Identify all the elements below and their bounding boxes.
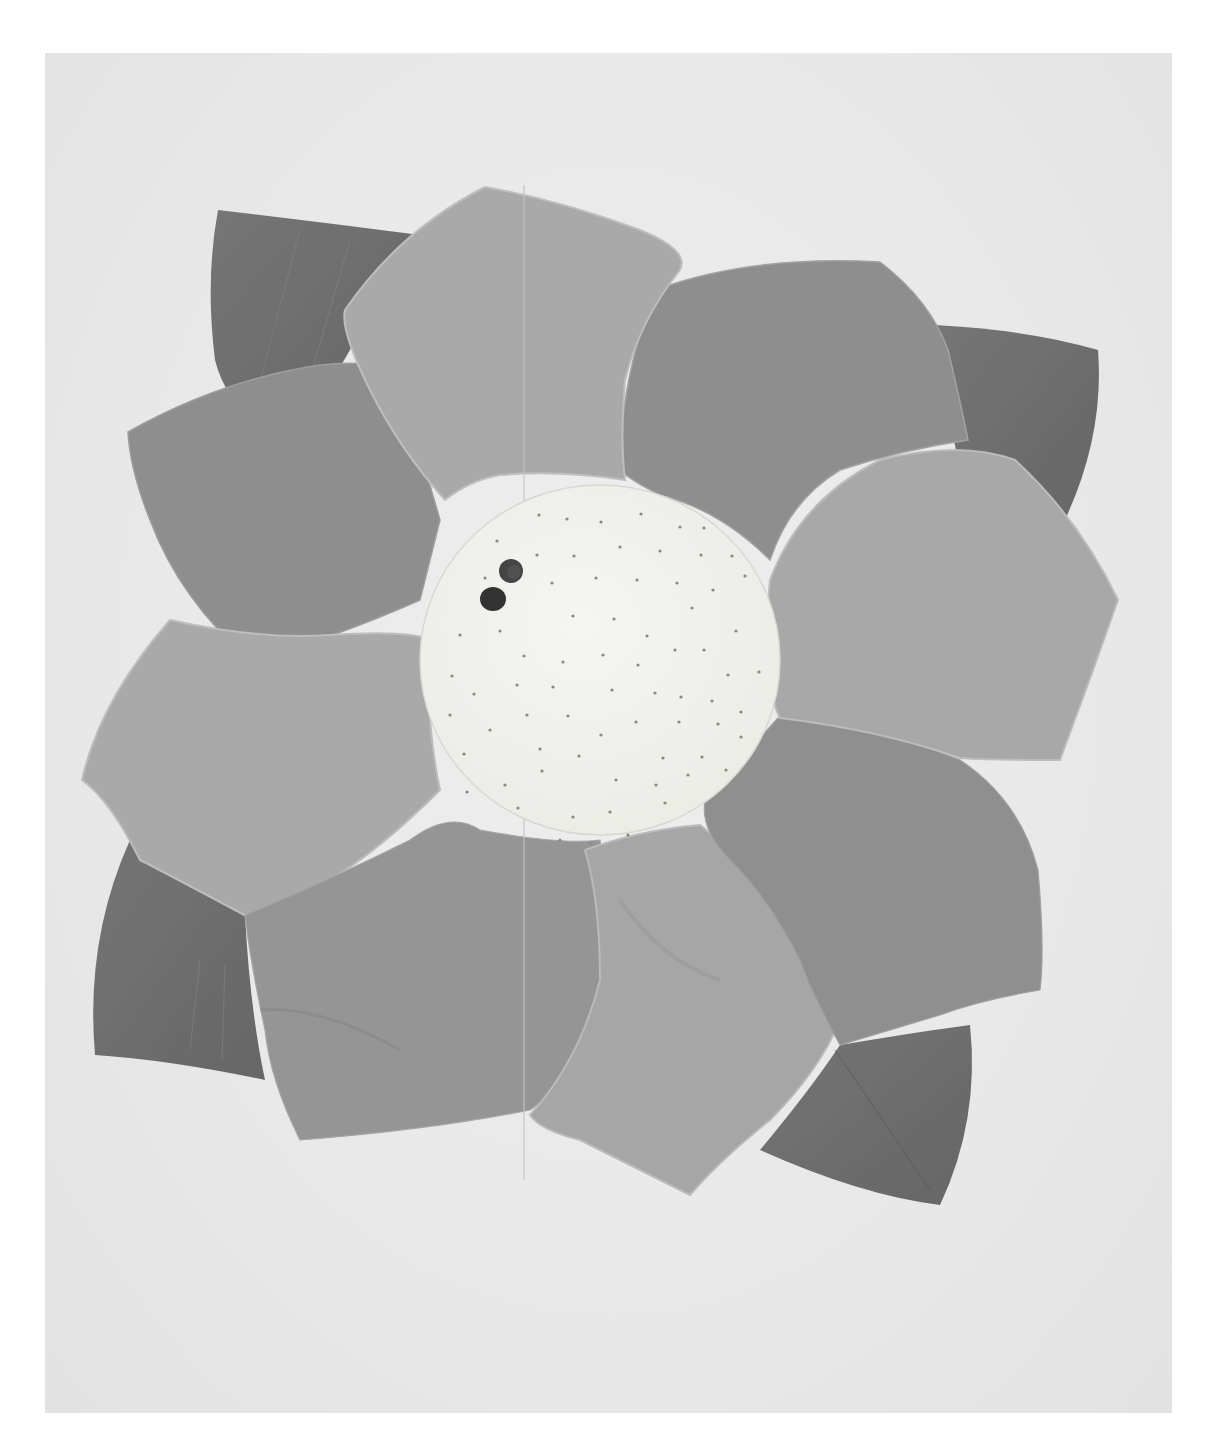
- flower-photo: [0, 0, 1208, 1448]
